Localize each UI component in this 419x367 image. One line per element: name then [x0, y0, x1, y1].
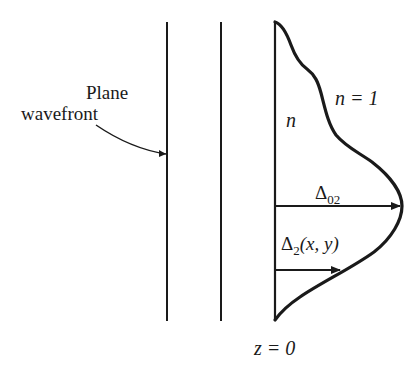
delta2-args: (x, y)	[300, 233, 339, 254]
wavefront-label: wavefront	[21, 104, 98, 123]
wavefront-pointer-head	[159, 150, 166, 157]
delta02-label: Δ02	[315, 183, 340, 206]
delta02-symbol: Δ	[315, 182, 327, 203]
refractive-index-inside: n	[286, 110, 296, 130]
diagram-canvas: Plane wavefront n n = 1 Δ02 Δ2(x, y) z =…	[0, 0, 419, 367]
wavefront-pointer	[96, 125, 166, 154]
z0-label: z = 0	[254, 338, 295, 358]
refractive-index-outside: n = 1	[335, 88, 379, 108]
delta2-label: Δ2(x, y)	[281, 234, 339, 257]
plane-label: Plane	[86, 83, 128, 102]
delta02-subscript: 02	[327, 192, 340, 207]
diagram-graphics	[0, 0, 419, 367]
phase-profile-curve	[275, 22, 402, 320]
delta2-symbol: Δ	[281, 233, 293, 254]
